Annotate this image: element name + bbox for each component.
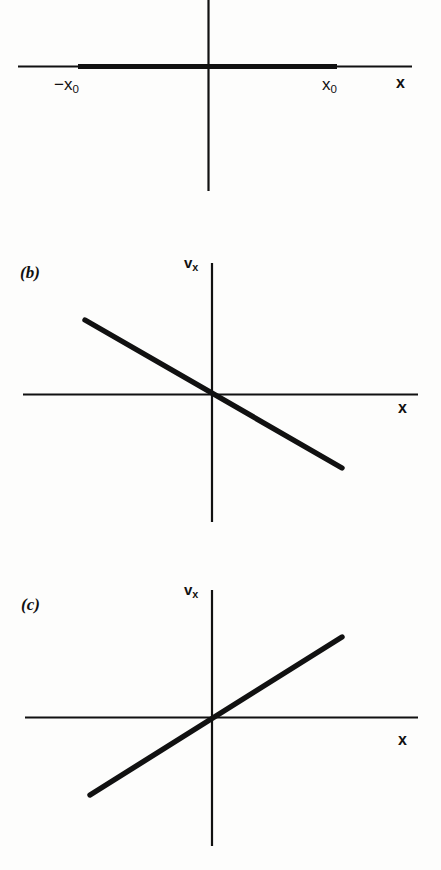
panel-tag-b: (b) [20, 264, 40, 281]
panel-a: −x0 x0 x [0, 0, 441, 220]
panel-c-plot [0, 550, 441, 870]
panel-b-plot [0, 220, 441, 550]
panel-c: (c) vx x [0, 550, 441, 870]
panel-b: (b) vx x [0, 220, 441, 550]
figure-canvas: −x0 x0 x (b) vx x [0, 0, 441, 870]
y-axis-label-panel-c: vx [184, 582, 198, 599]
x-axis-label-panel-c: x [398, 732, 407, 748]
tick-label-positive-x0: x0 [322, 76, 337, 96]
tick-label-negative-x0: −x0 [54, 76, 79, 96]
y-axis-label-panel-b: vx [184, 255, 198, 272]
panel-tag-c: (c) [21, 596, 40, 613]
panel-a-plot [0, 0, 441, 220]
x-axis-label-panel-b: x [398, 400, 407, 416]
data-line-positive-slope [90, 637, 342, 795]
x-axis-label-panel-a: x [396, 75, 405, 91]
